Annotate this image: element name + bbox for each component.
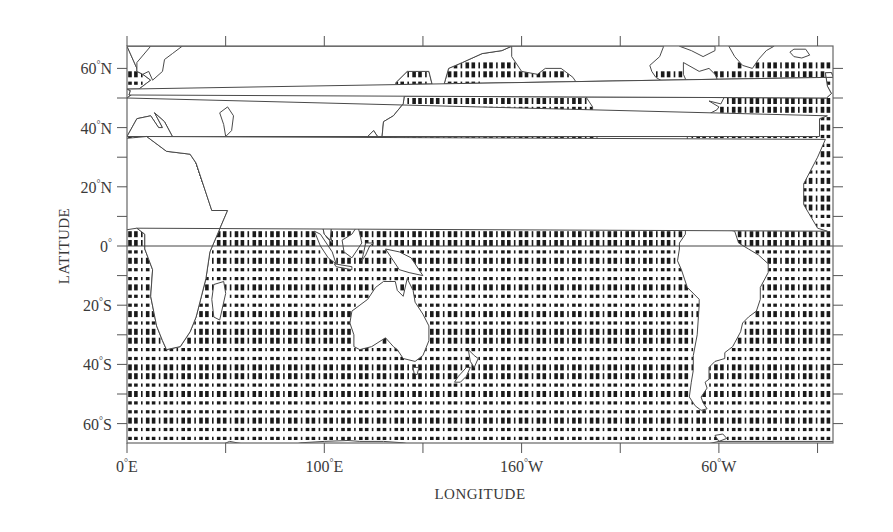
landmass-borneo: [342, 225, 362, 257]
landmass-australia: [350, 279, 429, 362]
ocean-grid-map: 0°E100°E160°W60°W 60°N40°N20°N0°20°S40°S…: [0, 0, 893, 532]
landmass-nz-n: [468, 350, 478, 368]
x-axis-title: LONGITUDE: [434, 486, 525, 502]
y-tick-label: 20°S: [83, 296, 112, 314]
y-tick-label: 60°N: [80, 59, 112, 77]
landmass-tasmania: [413, 367, 419, 374]
y-tick-label: 20°N: [80, 178, 112, 196]
x-tick-label: 100°E: [305, 457, 343, 475]
x-tick-label: 160°W: [500, 457, 544, 475]
continents: [94, 46, 838, 459]
x-tick-label: 0°E: [116, 457, 138, 475]
y-tick-label: 0°: [100, 237, 112, 255]
y-tick-label: 60°S: [83, 415, 112, 433]
landmass-baffin: [679, 46, 715, 56]
landmass-greenland: [729, 46, 774, 68]
y-axis-title: LATITUDE: [56, 208, 72, 284]
y-tick-label: 40°N: [80, 119, 112, 137]
landmass-antarctica: [127, 434, 837, 459]
y-tick-label: 40°S: [83, 355, 112, 373]
landmass-iceland: [790, 49, 810, 58]
x-tick-label: 60°W: [701, 457, 737, 475]
landmass-s-america: [678, 211, 769, 411]
